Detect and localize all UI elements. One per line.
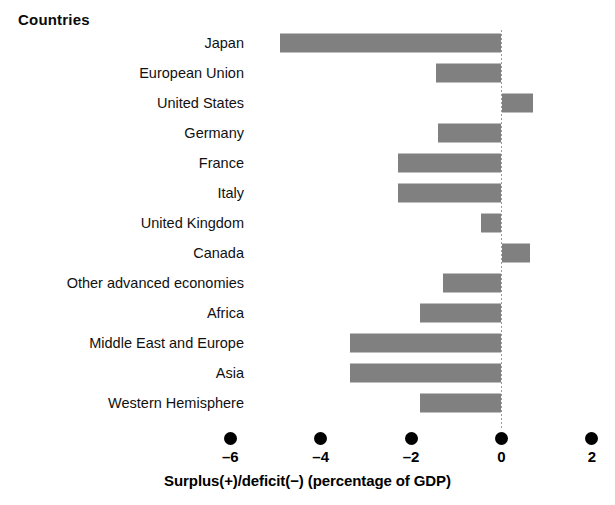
bar <box>398 154 502 173</box>
bar <box>420 394 501 413</box>
bar-row: Africa <box>0 298 615 328</box>
category-label: Italy <box>217 186 244 201</box>
bar <box>438 124 501 143</box>
bar-row: Japan <box>0 28 615 58</box>
bar <box>350 364 501 383</box>
bar-row: Italy <box>0 178 615 208</box>
bar <box>502 244 530 263</box>
x-axis-tick-label: –4 <box>291 448 351 465</box>
category-label: Asia <box>216 366 244 381</box>
bar <box>280 34 501 53</box>
bar <box>398 184 502 203</box>
bar-row: Asia <box>0 358 615 388</box>
category-label: France <box>199 156 244 171</box>
category-label: European Union <box>139 66 244 81</box>
bar-row: Canada <box>0 238 615 268</box>
x-axis-title: Surplus(+)/deficit(−) (percentage of GDP… <box>0 472 615 489</box>
x-axis-tick-dot <box>495 432 508 445</box>
category-label: Africa <box>207 306 244 321</box>
category-label: Western Hemisphere <box>108 396 244 411</box>
category-label: Canada <box>193 246 244 261</box>
bar-row: France <box>0 148 615 178</box>
x-axis-tick-dot <box>314 432 327 445</box>
bar <box>481 214 501 233</box>
plot-area: JapanEuropean UnionUnited StatesGermanyF… <box>0 0 615 430</box>
bar <box>502 94 534 113</box>
x-axis-tick-dot <box>585 432 598 445</box>
category-label: United States <box>157 96 244 111</box>
x-axis-tick-label: –6 <box>200 448 260 465</box>
x-axis-tick-label: 0 <box>472 448 532 465</box>
bar-chart: Countries JapanEuropean UnionUnited Stat… <box>0 0 615 505</box>
category-label: United Kingdom <box>141 216 244 231</box>
x-axis-tick-label: –2 <box>381 448 441 465</box>
bar-row: European Union <box>0 58 615 88</box>
bar <box>350 334 501 353</box>
bar-row: United States <box>0 88 615 118</box>
bar <box>436 64 502 83</box>
x-axis: –6–4–202 Surplus(+)/deficit(−) (percenta… <box>0 428 615 505</box>
bar-row: United Kingdom <box>0 208 615 238</box>
category-label: Middle East and Europe <box>89 336 244 351</box>
bar <box>420 304 501 323</box>
x-axis-tick-dot <box>405 432 418 445</box>
x-axis-tick-label: 2 <box>562 448 615 465</box>
bar-row: Western Hemisphere <box>0 388 615 418</box>
bar-row: Middle East and Europe <box>0 328 615 358</box>
bar-row: Germany <box>0 118 615 148</box>
category-label: Germany <box>184 126 244 141</box>
x-axis-tick-dot <box>224 432 237 445</box>
bar <box>443 274 502 293</box>
category-label: Other advanced economies <box>67 276 244 291</box>
bar-row: Other advanced economies <box>0 268 615 298</box>
category-label: Japan <box>204 36 244 51</box>
